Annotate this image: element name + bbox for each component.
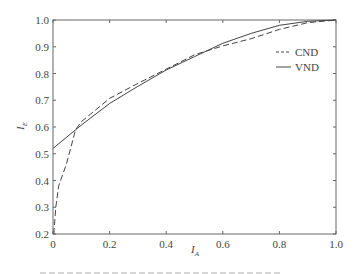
y-tick-label: 0.6: [35, 121, 49, 133]
y-tick-labels: 0.20.30.40.50.60.70.80.91.0: [35, 14, 49, 240]
x-tick-labels: 00.20.40.60.81.0: [50, 238, 343, 250]
y-tick-label: 0.3: [35, 201, 49, 213]
y-tick-label: 0.2: [35, 228, 49, 240]
legend-cnd-label: CND: [295, 46, 318, 58]
x-axis-label: IA: [190, 243, 200, 258]
chart: 00.20.40.60.81.0 0.20.30.40.50.60.70.80.…: [0, 0, 355, 274]
y-tick-label: 0.8: [35, 68, 49, 80]
y-axis-label: IE: [14, 121, 29, 131]
x-tick-label: 0: [50, 238, 56, 250]
y-tick-label: 0.5: [35, 148, 49, 160]
x-tick-label: 0.8: [273, 238, 287, 250]
legend: CND VND: [276, 46, 319, 73]
plot-frame: [53, 20, 336, 234]
x-tick-label: 0.4: [159, 238, 173, 250]
series-vnd: [53, 20, 336, 148]
series-cnd: [54, 20, 336, 234]
y-tick-label: 0.4: [35, 175, 49, 187]
x-tick-label: 0.6: [216, 238, 230, 250]
axis-ticks: [53, 20, 336, 234]
y-tick-label: 1.0: [35, 14, 49, 26]
y-tick-label: 0.7: [35, 94, 49, 106]
x-tick-label: 1.0: [329, 238, 343, 250]
data-series: [53, 20, 336, 234]
legend-vnd-label: VND: [295, 61, 319, 73]
y-tick-label: 0.9: [35, 41, 49, 53]
figure-caption-clipped: [40, 268, 280, 274]
x-tick-label: 0.2: [103, 238, 117, 250]
